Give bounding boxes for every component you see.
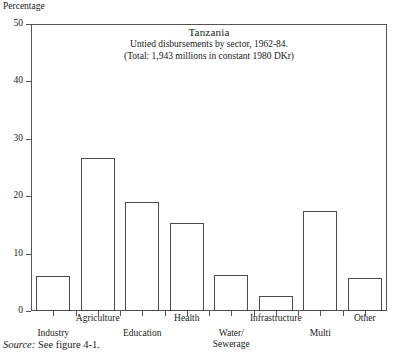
y-tick-label: 40 bbox=[14, 75, 24, 86]
bar bbox=[81, 158, 115, 311]
x-axis-category-label-line: Water/ bbox=[219, 328, 244, 338]
x-axis-category-label: Water/Sewerage bbox=[213, 328, 250, 350]
y-tick-mark bbox=[26, 139, 31, 140]
x-axis-category-label: Multi bbox=[310, 328, 331, 339]
x-tick-mark bbox=[142, 311, 143, 316]
y-tick-mark bbox=[26, 24, 31, 25]
x-axis-category-label: Infrastructure bbox=[250, 313, 302, 324]
y-tick-label: 10 bbox=[14, 248, 24, 259]
bar bbox=[348, 278, 382, 311]
y-tick-mark bbox=[26, 196, 31, 197]
y-tick-label: 30 bbox=[14, 133, 24, 144]
x-axis-category-label-line: Industry bbox=[37, 328, 69, 338]
bar bbox=[214, 275, 248, 311]
x-axis-category-label: Education bbox=[123, 328, 162, 339]
x-tick-mark bbox=[120, 311, 121, 316]
bar bbox=[36, 276, 70, 311]
y-tick-label: 50 bbox=[14, 18, 24, 29]
y-tick-label: 0 bbox=[18, 305, 23, 316]
source-text: See figure 4-1. bbox=[38, 339, 100, 350]
y-tick-mark bbox=[26, 81, 31, 82]
x-axis-category-label-line: Multi bbox=[310, 328, 331, 338]
x-tick-mark bbox=[53, 311, 54, 316]
y-axis-unit-caption: Percentage bbox=[3, 1, 45, 12]
x-tick-mark bbox=[209, 311, 210, 316]
bar bbox=[303, 211, 337, 311]
y-tick-mark bbox=[26, 311, 31, 312]
x-axis-category-label-line: Sewerage bbox=[213, 339, 250, 350]
y-tick-label: 20 bbox=[14, 190, 24, 201]
y-tick-mark bbox=[26, 254, 31, 255]
source-label: Source: bbox=[3, 339, 35, 350]
bar bbox=[125, 202, 159, 311]
x-axis-category-label: Agriculture bbox=[76, 313, 120, 324]
x-axis-category-label-line: Agriculture bbox=[76, 313, 120, 323]
x-axis-category-label-line: Education bbox=[123, 328, 162, 338]
x-tick-mark bbox=[231, 311, 232, 316]
x-tick-mark bbox=[320, 311, 321, 316]
x-axis-category-label-line: Infrastructure bbox=[250, 313, 302, 323]
x-axis-category-label-line: Other bbox=[354, 313, 376, 323]
bar bbox=[170, 223, 204, 311]
x-axis-category-label: Other bbox=[354, 313, 376, 324]
x-tick-mark bbox=[343, 311, 344, 316]
x-axis-category-label: Health bbox=[174, 313, 199, 324]
source-note: Source: See figure 4-1. bbox=[3, 338, 100, 351]
bar bbox=[259, 296, 293, 311]
x-tick-mark bbox=[165, 311, 166, 316]
x-axis-category-label-line: Health bbox=[174, 313, 199, 323]
